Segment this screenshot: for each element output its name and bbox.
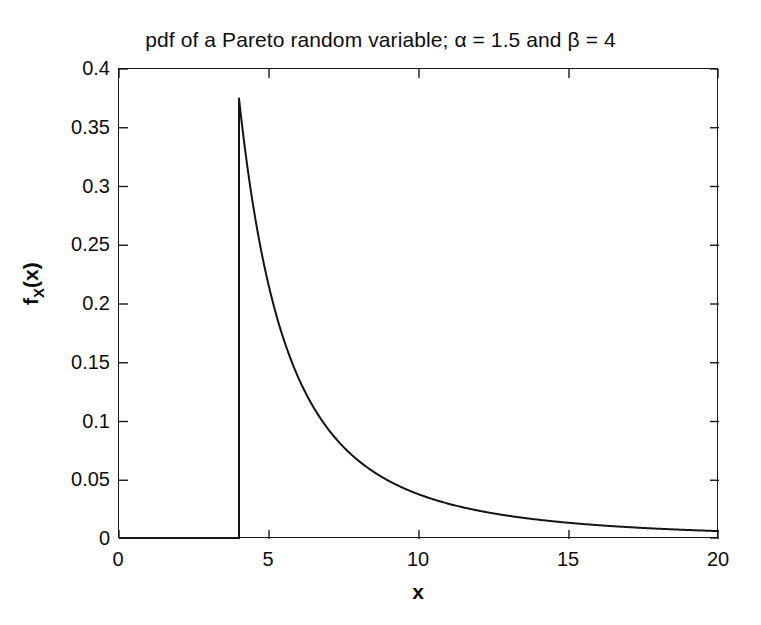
y-tick-label: 0 bbox=[99, 527, 110, 550]
y-tick-label: 0.4 bbox=[82, 57, 110, 80]
x-axis-label: x bbox=[118, 580, 718, 604]
y-tick-label: 0.3 bbox=[82, 174, 110, 197]
x-tick-label: 10 bbox=[407, 548, 429, 571]
pareto-pdf-curve-svg bbox=[119, 69, 719, 539]
x-tick-label: 15 bbox=[557, 548, 579, 571]
y-tick-label: 0.35 bbox=[71, 115, 110, 138]
chart-title: pdf of a Pareto random variable; α = 1.5… bbox=[0, 28, 761, 52]
y-tick-label: 0.25 bbox=[71, 233, 110, 256]
y-tick-label: 0.05 bbox=[71, 468, 110, 491]
x-tick-label: 5 bbox=[262, 548, 273, 571]
plot-area bbox=[118, 68, 718, 538]
x-tick-label: 0 bbox=[112, 548, 123, 571]
y-tick-label: 0.15 bbox=[71, 350, 110, 373]
y-tick-label: 0.1 bbox=[82, 409, 110, 432]
y-axis-ticks bbox=[119, 69, 719, 539]
data-series-line bbox=[119, 98, 719, 539]
y-axis-tick-labels: 00.050.10.150.20.250.30.350.4 bbox=[32, 68, 110, 538]
figure-canvas: pdf of a Pareto random variable; α = 1.5… bbox=[0, 0, 761, 625]
x-tick-label: 20 bbox=[707, 548, 729, 571]
x-axis-tick-labels: 05101520 bbox=[118, 548, 718, 578]
y-tick-label: 0.2 bbox=[82, 292, 110, 315]
x-axis-ticks bbox=[119, 69, 719, 539]
